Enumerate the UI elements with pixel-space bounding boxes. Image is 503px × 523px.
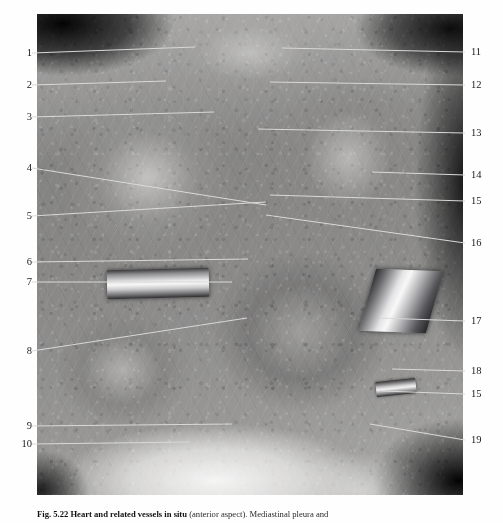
label-number-6-left-5: 6 <box>6 257 32 268</box>
label-number-12-right-1: 12 <box>471 80 482 91</box>
label-number-19-right-9: 19 <box>471 435 482 446</box>
leader-line-left-6-5 <box>32 259 248 262</box>
leader-line-right-12-1 <box>270 82 465 85</box>
label-number-18-right-7: 18 <box>471 366 482 377</box>
leader-line-overlay <box>0 0 503 523</box>
label-number-13-right-2: 13 <box>471 128 482 139</box>
label-number-7-left-6: 7 <box>6 277 32 288</box>
leader-line-right-15-8 <box>382 391 465 394</box>
label-number-9-left-8: 9 <box>6 421 32 432</box>
label-number-15-right-8: 15 <box>471 389 482 400</box>
leader-line-left-8-7 <box>32 318 247 351</box>
label-number-2-left-1: 2 <box>6 80 32 91</box>
label-number-10-left-9: 10 <box>6 439 32 450</box>
leader-line-right-11-0 <box>282 48 465 52</box>
label-number-4-left-3: 4 <box>6 163 32 174</box>
leader-line-left-9-8 <box>32 424 232 426</box>
leader-line-right-15-4 <box>270 195 465 201</box>
label-number-1-left-0: 1 <box>6 48 32 59</box>
leader-line-left-4-3 <box>32 168 266 205</box>
label-number-11-right-0: 11 <box>471 47 481 58</box>
leader-line-right-16-5 <box>266 215 465 243</box>
leader-line-left-1-0 <box>32 47 195 53</box>
caption-title: Heart and related vessels in situ <box>70 509 187 519</box>
label-number-16-right-5: 16 <box>471 238 482 249</box>
leader-line-left-3-2 <box>32 112 214 117</box>
leader-line-right-19-9 <box>370 424 465 440</box>
caption-trailing: Mediastinal pleura and <box>250 509 329 519</box>
leader-line-right-13-2 <box>258 129 465 133</box>
label-number-3-left-2: 3 <box>6 112 32 123</box>
label-number-17-right-6: 17 <box>471 316 482 327</box>
leader-line-left-2-1 <box>32 81 166 85</box>
leader-line-left-10-9 <box>32 442 190 444</box>
figure-page: 1234567891011121314151617181519 Fig. 5.2… <box>0 0 503 523</box>
leader-line-right-18-7 <box>392 369 465 371</box>
leader-line-right-14-3 <box>372 172 465 175</box>
caption-detail: (anterior aspect). <box>189 509 247 519</box>
caption-figure-number: Fig. 5.22 <box>37 509 68 519</box>
label-number-14-right-3: 14 <box>471 170 482 181</box>
leader-line-left-5-4 <box>32 202 266 216</box>
leader-line-right-17-6 <box>380 318 465 321</box>
label-number-5-left-4: 5 <box>6 211 32 222</box>
label-number-15-right-4: 15 <box>471 196 482 207</box>
figure-caption: Fig. 5.22 Heart and related vessels in s… <box>37 509 477 523</box>
label-number-8-left-7: 8 <box>6 346 32 357</box>
